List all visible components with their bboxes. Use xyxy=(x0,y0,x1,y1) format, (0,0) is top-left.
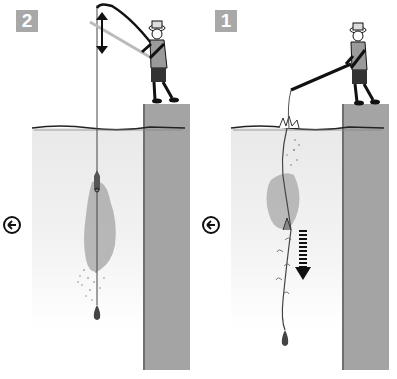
left-arrow-circle-icon xyxy=(202,216,220,234)
fishing-rod-ghost xyxy=(90,22,155,60)
groundbait-cloud xyxy=(84,181,116,271)
illustration-step-1 xyxy=(199,0,397,379)
angler-figure xyxy=(142,21,179,104)
illustration-step-2 xyxy=(0,0,198,379)
fishing-rod xyxy=(291,64,351,90)
groundbait-particles xyxy=(286,139,300,166)
down-arrow-dashed-icon xyxy=(295,230,311,280)
groundbait-cloud xyxy=(267,173,300,229)
groundbait-particles xyxy=(77,269,104,300)
weight xyxy=(282,330,288,346)
water-surface-line xyxy=(231,126,384,130)
feeder xyxy=(94,170,100,190)
panel-step-2: 2 xyxy=(0,0,198,379)
weight xyxy=(94,305,100,320)
panel-step-1: 1 xyxy=(199,0,397,379)
water-surface-line xyxy=(32,126,185,130)
left-arrow-circle-icon xyxy=(3,216,21,234)
